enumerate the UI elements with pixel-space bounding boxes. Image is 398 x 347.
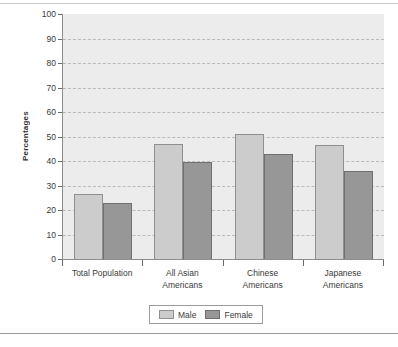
bar-female bbox=[264, 154, 293, 259]
y-axis-tick-label: 0 bbox=[28, 255, 56, 264]
x-axis-tick bbox=[223, 260, 224, 266]
bar-groups bbox=[63, 14, 384, 259]
bar-group bbox=[224, 14, 304, 259]
x-axis-tick bbox=[303, 260, 304, 266]
bar-female bbox=[103, 203, 132, 259]
y-axis-tick-label: 60 bbox=[28, 108, 56, 117]
y-axis-tick-label: 10 bbox=[28, 230, 56, 239]
y-axis-tick-label: 40 bbox=[28, 157, 56, 166]
top-divider bbox=[0, 3, 398, 4]
plot-area bbox=[62, 14, 384, 260]
legend-label: Male bbox=[178, 310, 196, 320]
y-axis-tick-labels: 1009080706050403020100 bbox=[28, 14, 56, 259]
chart-legend: MaleFemale bbox=[149, 305, 263, 324]
x-axis-tick bbox=[62, 260, 63, 266]
legend-swatch-male bbox=[159, 310, 174, 319]
y-axis-tick-label: 50 bbox=[28, 132, 56, 141]
x-axis-tick bbox=[383, 260, 384, 266]
bar-male bbox=[315, 145, 344, 259]
bar-male bbox=[74, 194, 103, 259]
x-axis-tick bbox=[142, 260, 143, 266]
y-axis-tick-label: 90 bbox=[28, 34, 56, 43]
x-axis-tick-labels: Total PopulationAll AsianAmericansChines… bbox=[62, 268, 383, 291]
y-axis-tick-label: 100 bbox=[28, 10, 56, 19]
bar-group bbox=[304, 14, 384, 259]
bar-female bbox=[344, 171, 373, 259]
x-axis-tick-marks bbox=[62, 260, 385, 266]
y-axis-tick-label: 80 bbox=[28, 59, 56, 68]
legend-label: Female bbox=[224, 310, 252, 320]
x-axis-tick-label: ChineseAmericans bbox=[223, 268, 303, 291]
x-axis-tick-label: Total Population bbox=[62, 268, 142, 291]
bar-chart-figure: Percentages 1009080706050403020100 Total… bbox=[0, 0, 398, 347]
bar-female bbox=[183, 162, 212, 259]
legend-item[interactable]: Male bbox=[159, 310, 196, 320]
bar-group bbox=[143, 14, 223, 259]
x-axis-tick-label: JapaneseAmericans bbox=[303, 268, 383, 291]
y-axis-tick-label: 70 bbox=[28, 83, 56, 92]
y-axis-tick-label: 30 bbox=[28, 181, 56, 190]
bar-male bbox=[235, 134, 264, 259]
bar-group bbox=[63, 14, 143, 259]
legend-item[interactable]: Female bbox=[205, 310, 252, 320]
bar-male bbox=[154, 144, 183, 259]
y-axis-tick-label: 20 bbox=[28, 206, 56, 215]
x-axis-tick-label: All AsianAmericans bbox=[142, 268, 222, 291]
bottom-divider bbox=[0, 333, 398, 334]
legend-swatch-female bbox=[205, 310, 220, 319]
